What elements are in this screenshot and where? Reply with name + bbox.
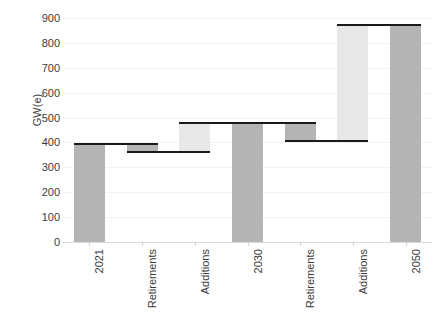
gridline: [63, 93, 432, 94]
y-axis-tick-label: 800: [20, 37, 60, 48]
x-axis-tick-label-0: 2021: [94, 249, 105, 273]
connector-line-1: [127, 151, 211, 153]
y-axis-tick-label: 700: [20, 62, 60, 73]
x-axis-tick-label-3: 2030: [253, 249, 264, 273]
y-axis-tick-label: 400: [20, 137, 60, 148]
connector-line-0: [74, 143, 158, 145]
y-axis-tick-label: 0: [20, 237, 60, 248]
bar-increase-2: [179, 123, 210, 152]
x-axis-tick-label-2: Additions: [200, 249, 211, 294]
gridline: [63, 68, 432, 69]
x-axis-tick-mark: [89, 242, 90, 246]
connector-line-4: [285, 140, 369, 142]
bar-total-6: [390, 25, 421, 242]
bar-total-0: [74, 144, 105, 242]
gridline: [63, 18, 432, 19]
x-axis-tick-mark: [406, 242, 407, 246]
x-axis-tick-label-6: 2050: [411, 249, 422, 273]
x-axis-tick-mark: [300, 242, 301, 246]
plot-area: [63, 18, 432, 242]
y-axis-tick-label: 300: [20, 162, 60, 173]
x-axis-tick-label-1: Retirements: [147, 249, 158, 308]
y-axis-tick-label: 200: [20, 187, 60, 198]
x-axis-tick-mark: [195, 242, 196, 246]
x-axis-tick-mark: [142, 242, 143, 246]
x-axis-tick-label-5: Additions: [358, 249, 369, 294]
bar-increase-5: [337, 25, 368, 141]
y-axis-tick-label: 600: [20, 87, 60, 98]
bar-decrease-4: [285, 123, 316, 142]
bar-total-3: [232, 123, 263, 242]
y-axis-tick-label: 100: [20, 212, 60, 223]
x-axis-tick-label-4: Retirements: [305, 249, 316, 308]
x-axis-tick-mark: [353, 242, 354, 246]
gridline: [63, 118, 432, 119]
connector-line-5: [337, 24, 421, 26]
y-axis-tick-label: 500: [20, 112, 60, 123]
x-axis-tick-mark: [248, 242, 249, 246]
gridline: [63, 43, 432, 44]
y-axis-tick-label: 900: [20, 13, 60, 24]
waterfall-chart: GW(e) 0100200300400500600700800900 2021R…: [0, 0, 437, 315]
connector-line-3: [232, 122, 316, 124]
